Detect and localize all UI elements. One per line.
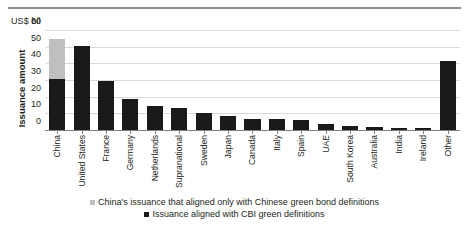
bar-slot-france[interactable] bbox=[94, 31, 118, 131]
legend-row-1: Issuance aligned with CBI green definiti… bbox=[0, 208, 469, 220]
bar-slot-china[interactable] bbox=[45, 31, 69, 131]
bar-segment-chinese-only bbox=[49, 39, 65, 80]
x-category-slot: China bbox=[45, 133, 69, 191]
chart-legend: China's issuance that aligned only with … bbox=[0, 196, 469, 220]
bar-slot-other[interactable] bbox=[436, 31, 460, 131]
bar-slot-canada[interactable] bbox=[240, 31, 264, 131]
x-category-slot: Canada bbox=[240, 133, 264, 191]
bar-slot-spain[interactable] bbox=[289, 31, 313, 131]
x-category-slot: UAE bbox=[313, 133, 337, 191]
x-category-label-spain: Spain bbox=[296, 135, 306, 157]
bar-slot-germany[interactable] bbox=[118, 31, 142, 131]
x-category-slot: Italy bbox=[265, 133, 289, 191]
bar-segment-cbi-aligned bbox=[49, 79, 65, 131]
bar-segment-cbi-aligned bbox=[440, 61, 456, 131]
x-category-slot: Ireland bbox=[411, 133, 435, 191]
chart-plot-area: 6050403020100 bbox=[45, 31, 460, 131]
x-category-label-china: China bbox=[52, 135, 62, 157]
x-category-slot: Spain bbox=[289, 133, 313, 191]
x-category-label-france: France bbox=[101, 135, 111, 162]
y-tick-label-20: 20 bbox=[31, 83, 41, 93]
x-category-label-united-states: United States bbox=[77, 135, 87, 187]
x-category-label-uae: UAE bbox=[321, 135, 331, 153]
bar-slot-japan[interactable] bbox=[216, 31, 240, 131]
x-category-label-germany: Germany bbox=[125, 135, 135, 170]
x-category-slot: France bbox=[94, 133, 118, 191]
y-tick-label-10: 10 bbox=[31, 99, 41, 109]
y-axis-title: Issuance amount bbox=[16, 41, 27, 137]
bar-segment-cbi-aligned bbox=[171, 108, 187, 131]
bar-slot-uae[interactable] bbox=[313, 31, 337, 131]
bar-segment-cbi-aligned bbox=[122, 99, 138, 131]
y-tick-label-60: 60 bbox=[31, 16, 41, 26]
x-category-label-italy: Italy bbox=[272, 135, 282, 151]
x-category-slot: South Korea bbox=[338, 133, 362, 191]
x-category-label-australia: Australia bbox=[369, 135, 379, 168]
legend-label-chinese-only: China's issuance that aligned only with … bbox=[98, 196, 379, 208]
x-category-slot: Other bbox=[436, 133, 460, 191]
bar-slot-south-korea[interactable] bbox=[338, 31, 362, 131]
x-category-slot: United States bbox=[69, 133, 93, 191]
x-category-slot: Sweden bbox=[191, 133, 215, 191]
bar-slot-united-states[interactable] bbox=[69, 31, 93, 131]
x-axis-line bbox=[45, 130, 460, 131]
y-tick-label-50: 50 bbox=[31, 33, 41, 43]
y-tick-label-0: 0 bbox=[36, 116, 41, 126]
x-category-label-south-korea: South Korea bbox=[345, 135, 355, 183]
x-category-label-netherlands: Netherlands bbox=[150, 135, 160, 181]
x-category-slot: India bbox=[387, 133, 411, 191]
bar-segment-cbi-aligned bbox=[220, 116, 236, 131]
x-category-label-canada: Canada bbox=[247, 135, 257, 165]
y-tick-label-40: 40 bbox=[31, 49, 41, 59]
x-category-label-sweden: Sweden bbox=[199, 135, 209, 166]
x-category-label-supranational: Supranational bbox=[174, 135, 184, 188]
bar-segment-cbi-aligned bbox=[147, 106, 163, 131]
bar-slot-supranational[interactable] bbox=[167, 31, 191, 131]
bar-segment-cbi-aligned bbox=[74, 46, 90, 131]
legend-row-0: China's issuance that aligned only with … bbox=[0, 196, 469, 208]
bar-slot-italy[interactable] bbox=[265, 31, 289, 131]
x-axis-category-labels: ChinaUnited StatesFranceGermanyNetherlan… bbox=[45, 133, 460, 191]
x-category-label-other: Other bbox=[443, 135, 453, 157]
legend-label-cbi-aligned: Issuance aligned with CBI green definiti… bbox=[152, 208, 324, 220]
x-category-slot: Germany bbox=[118, 133, 142, 191]
x-category-label-ireland: Ireland bbox=[418, 135, 428, 161]
bar-series-group bbox=[45, 31, 460, 131]
x-category-slot: Netherlands bbox=[143, 133, 167, 191]
legend-swatch-chinese-only-icon bbox=[90, 200, 95, 205]
top-divider-rule bbox=[8, 7, 461, 9]
bar-slot-india[interactable] bbox=[387, 31, 411, 131]
x-category-label-india: India bbox=[394, 135, 404, 154]
x-category-slot: Supranational bbox=[167, 133, 191, 191]
bar-segment-cbi-aligned bbox=[196, 113, 212, 131]
x-category-slot: Japan bbox=[216, 133, 240, 191]
bar-segment-cbi-aligned bbox=[98, 81, 114, 131]
y-tick-label-30: 30 bbox=[31, 66, 41, 76]
x-category-label-japan: Japan bbox=[223, 135, 233, 158]
bar-slot-ireland[interactable] bbox=[411, 31, 435, 131]
bar-slot-sweden[interactable] bbox=[191, 31, 215, 131]
bar-slot-australia[interactable] bbox=[362, 31, 386, 131]
legend-swatch-cbi-aligned-icon bbox=[144, 212, 149, 217]
bar-slot-netherlands[interactable] bbox=[143, 31, 167, 131]
x-category-slot: Australia bbox=[362, 133, 386, 191]
